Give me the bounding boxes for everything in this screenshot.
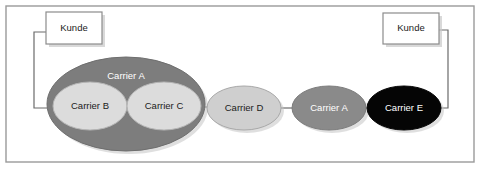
node-label-carrier-d: Carrier D — [225, 102, 264, 113]
node-carrier-d[interactable]: Carrier D — [207, 86, 281, 130]
node-label-carrier-a-right: Carrier A — [310, 102, 348, 113]
node-label-carrier-e: Carrier E — [385, 102, 423, 113]
diagram-svg: Carrier ACarrier BCarrier CCarrier DCarr… — [0, 0, 482, 169]
box-kunde-left[interactable]: Kunde — [46, 12, 105, 47]
box-label-kunde-right: Kunde — [397, 22, 424, 33]
node-label-carrier-c: Carrier C — [145, 100, 184, 111]
node-carrier-b[interactable]: Carrier B — [53, 82, 127, 130]
node-label-carrier-a-group: Carrier A — [107, 70, 145, 81]
node-carrier-e[interactable]: Carrier E — [367, 86, 441, 130]
node-label-carrier-b: Carrier B — [71, 100, 109, 111]
box-kunde-right[interactable]: Kunde — [383, 13, 442, 47]
node-carrier-a-right[interactable]: Carrier A — [292, 86, 366, 130]
diagram-canvas: Carrier ACarrier BCarrier CCarrier DCarr… — [0, 0, 482, 169]
node-carrier-c[interactable]: Carrier C — [127, 82, 201, 130]
box-label-kunde-left: Kunde — [60, 22, 87, 33]
